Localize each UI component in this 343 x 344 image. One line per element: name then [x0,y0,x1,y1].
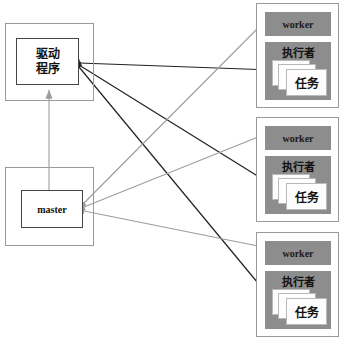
edge-master-to-worker-0-header [84,18,268,203]
worker-container-0: worker 执行者 任务 [256,3,339,108]
worker-container-1: worker 执行者 任务 [256,117,339,222]
task-label-1: 任务 [295,188,319,205]
worker-header-label-2: worker [282,248,313,259]
worker-header-label-0: worker [282,19,313,30]
executor-box-2[interactable]: 执行者 任务 [265,271,331,329]
task-stack-0: 任务 [272,60,328,96]
worker-header-0[interactable]: worker [265,12,331,36]
edge-driver-to-worker-2-executor [79,67,272,300]
edge-master-to-worker-2-header [84,211,268,248]
executor-box-1[interactable]: 执行者 任务 [265,156,331,214]
driver-label-line1: 驱动 [36,47,60,62]
driver-label-line2: 程序 [36,62,60,77]
architecture-diagram: 驱动 程序 master worker 执行者 任务 worker 执行 [0,0,343,344]
executor-label-2: 执行者 [265,273,331,289]
task-card-front-2[interactable]: 任务 [286,298,327,325]
worker-header-1[interactable]: worker [265,126,331,150]
executor-box-0[interactable]: 执行者 任务 [265,42,331,100]
executor-label-1: 执行者 [265,158,331,174]
edge-driver-to-worker-1-executor [79,65,272,185]
task-stack-1: 任务 [272,174,328,210]
master-node[interactable]: master [21,190,83,228]
edge-driver-to-worker-0-executor [79,63,272,70]
edge-master-to-worker-1-header [84,133,268,207]
master-label: master [37,204,66,215]
task-card-front-0[interactable]: 任务 [286,69,327,96]
worker-container-2: worker 执行者 任务 [256,232,339,337]
task-card-front-1[interactable]: 任务 [286,183,327,210]
driver-node[interactable]: 驱动 程序 [16,38,79,85]
task-label-0: 任务 [295,74,319,91]
worker-header-label-1: worker [282,133,313,144]
driver-label: 驱动 程序 [36,47,60,77]
task-stack-2: 任务 [272,289,328,325]
executor-label-0: 执行者 [265,44,331,60]
task-label-2: 任务 [295,303,319,320]
worker-header-2[interactable]: worker [265,241,331,265]
